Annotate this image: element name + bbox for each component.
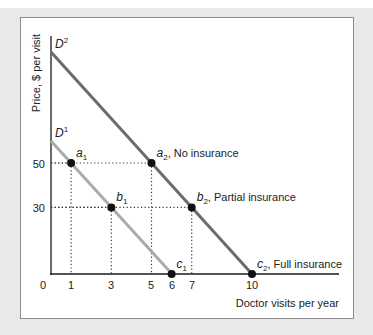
demand-chart: D1 D2 a1b1c1a2, No insuranceb2, Partial … bbox=[0, 0, 373, 335]
d1-label: D1 bbox=[55, 125, 69, 140]
x-tick-7: 7 bbox=[189, 279, 195, 291]
x-tick-5: 5 bbox=[148, 279, 154, 291]
x-tick-10: 10 bbox=[246, 279, 258, 291]
point-a2 bbox=[148, 159, 156, 167]
point-label-c1: c1 bbox=[177, 257, 188, 273]
x-axis-title: Doctor visits per year bbox=[236, 297, 340, 309]
y-axis-title: Price, $ per visit bbox=[30, 34, 42, 112]
point-a1 bbox=[67, 159, 75, 167]
y-tick-50: 50 bbox=[33, 158, 45, 170]
point-b2 bbox=[188, 203, 196, 211]
point-b1 bbox=[107, 203, 115, 211]
point-label-b2: b2, Partial insurance bbox=[197, 190, 296, 206]
point-label-c2: c2, Full insurance bbox=[257, 257, 342, 273]
point-label-a2: a2, No insurance bbox=[157, 146, 239, 162]
marked-points: a1b1c1a2, No insuranceb2, Partial insura… bbox=[67, 146, 342, 278]
x-tick-3: 3 bbox=[108, 279, 114, 291]
x-tick-6: 6 bbox=[169, 279, 175, 291]
point-c2 bbox=[248, 270, 256, 278]
x-tick-0: 0 bbox=[40, 279, 46, 291]
x-tick-1: 1 bbox=[68, 279, 74, 291]
d2-label: D2 bbox=[55, 36, 69, 51]
y-tick-30: 30 bbox=[33, 202, 45, 214]
point-c1 bbox=[168, 270, 176, 278]
point-label-b1: b1 bbox=[116, 190, 128, 206]
point-label-a1: a1 bbox=[76, 146, 88, 162]
